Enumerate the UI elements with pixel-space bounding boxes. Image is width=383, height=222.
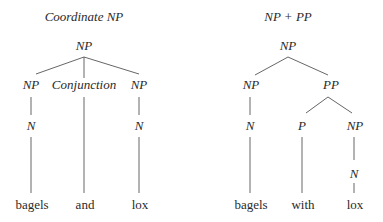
node-pp: PP	[322, 77, 339, 92]
word-lox: lox	[132, 197, 149, 212]
tree-np-pp: NP + PP NP NP PP N P NP N bagels with lo…	[234, 9, 363, 212]
node-np-object: NP	[346, 118, 364, 133]
edge-root-np	[255, 57, 288, 75]
node-conjunction: Conjunction	[52, 77, 116, 92]
tree-title-np-pp: NP + PP	[263, 9, 312, 24]
node-n: N	[245, 118, 256, 133]
node-np: NP	[242, 77, 260, 92]
node-n-right: N	[134, 118, 145, 133]
node-np-root: NP	[75, 38, 93, 53]
node-n-object: N	[349, 166, 360, 181]
node-p: P	[297, 118, 306, 133]
edge-root-np	[36, 57, 84, 74]
node-np-right: NP	[130, 77, 148, 92]
word-with: with	[291, 197, 315, 212]
tree-title-coordinate-np: Coordinate NP	[45, 9, 124, 24]
node-np-left: NP	[22, 77, 40, 92]
word-bagels: bagels	[234, 197, 267, 212]
word-and: and	[76, 197, 95, 212]
edge-root-np-right	[84, 57, 139, 74]
node-n-left: N	[26, 118, 37, 133]
word-lox: lox	[347, 197, 364, 212]
syntax-tree-diagram: Coordinate NP NP NP Conjunction NP N N b…	[0, 0, 383, 222]
edge-pp-np	[328, 97, 352, 113]
tree-coordinate-np: Coordinate NP NP NP Conjunction NP N N b…	[15, 9, 148, 212]
edge-pp-p	[306, 97, 328, 113]
node-np-root: NP	[279, 38, 297, 53]
edge-root-pp	[288, 57, 328, 75]
word-bagels: bagels	[15, 197, 48, 212]
